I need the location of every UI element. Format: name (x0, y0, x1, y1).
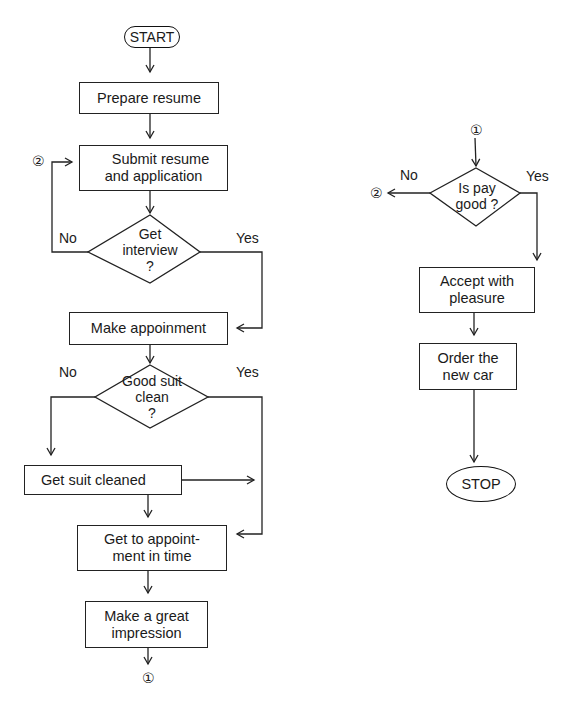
step-label: Get suit cleaned (41, 472, 146, 489)
step-label-line1: Get to appoint- (104, 531, 200, 548)
connector-1-out: ① (142, 671, 155, 685)
step-label-line2: pleasure (449, 290, 505, 307)
connector-2-out: ② (370, 186, 383, 200)
decision-line1: Good suit (122, 373, 182, 389)
step-accept: Accept with pleasure (419, 267, 535, 313)
decision-line2: clean (135, 389, 168, 405)
step-make-appointment: Make appoinment (69, 312, 228, 345)
step-label-line1: Submit resume (98, 151, 210, 168)
step-label: Make appoinment (91, 320, 206, 337)
step-label-line2: new car (443, 367, 494, 384)
decision-line1: Is pay (458, 180, 495, 196)
arrow-suit-yes (208, 397, 262, 534)
connector-1-in: ① (470, 123, 483, 137)
step-label-line2: impression (111, 625, 181, 642)
step-submit-resume: Submit resume and application (79, 145, 228, 191)
suit-yes-label: Yes (236, 364, 259, 381)
arrow-pay-yes (520, 193, 537, 260)
step-prepare-resume: Prepare resume (79, 82, 219, 114)
suit-no-label: No (59, 364, 77, 381)
decision-line1: Get (139, 226, 162, 242)
step-get-to-appointment: Get to appoint- ment in time (77, 525, 227, 571)
connector-2-in: ② (32, 154, 45, 168)
decision-line3: ? (146, 258, 154, 274)
decision-line2: interview (122, 242, 177, 258)
decision-suit: Good suit clean ? (110, 370, 194, 424)
decision-line2: good ? (456, 196, 499, 212)
stop-label: STOP (461, 476, 500, 492)
interview-yes-label: Yes (236, 230, 259, 247)
interview-no-label: No (59, 230, 77, 247)
decision-interview: Get interview ? (100, 222, 200, 278)
step-get-suit-cleaned: Get suit cleaned (24, 465, 182, 495)
arrow-connector1-to-pay (475, 138, 476, 166)
decision-line3: ? (148, 405, 156, 421)
decision-pay: Is pay good ? (440, 178, 514, 214)
step-make-impression: Make a great impression (85, 601, 208, 648)
step-label-line1: Accept with (440, 273, 514, 290)
step-label-line1: Order the (437, 350, 498, 367)
stop-terminal: STOP (446, 466, 516, 502)
pay-yes-label: Yes (526, 168, 549, 185)
step-label: Prepare resume (97, 90, 201, 107)
start-label: START (130, 29, 175, 45)
step-label-line2: ment in time (113, 548, 192, 565)
start-terminal: START (124, 26, 180, 48)
step-order-car: Order the new car (419, 343, 517, 390)
step-label-line2: and application (105, 168, 203, 185)
arrow-suit-no (51, 397, 95, 455)
step-label-line1: Make a great (104, 608, 189, 625)
pay-no-label: No (400, 167, 418, 184)
